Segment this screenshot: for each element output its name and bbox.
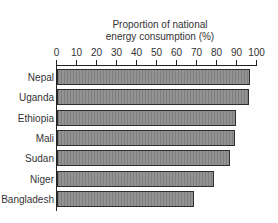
chart-title-line-2: energy consumption (%) bbox=[100, 31, 220, 43]
x-tick-label: 100 bbox=[248, 47, 265, 58]
x-tick bbox=[76, 60, 77, 66]
x-tick bbox=[236, 60, 237, 66]
x-tick-label: 40 bbox=[131, 47, 142, 58]
x-tick-label: 70 bbox=[191, 47, 202, 58]
x-tick-label: 0 bbox=[54, 47, 60, 58]
x-tick-label: 30 bbox=[111, 47, 122, 58]
category-label: Niger bbox=[30, 174, 54, 186]
bar-niger bbox=[57, 171, 214, 187]
category-label: Mali bbox=[36, 133, 54, 145]
chart-title-line-1: Proportion of national bbox=[100, 19, 220, 31]
bar-sudan bbox=[57, 150, 230, 166]
chart-title: Proportion of national energy consumptio… bbox=[100, 19, 220, 43]
x-tick-label: 60 bbox=[171, 47, 182, 58]
x-tick-label: 10 bbox=[71, 47, 82, 58]
category-label: Uganda bbox=[19, 92, 54, 104]
x-tick-label: 90 bbox=[231, 47, 242, 58]
x-tick bbox=[156, 60, 157, 66]
x-tick bbox=[136, 60, 137, 66]
x-tick bbox=[116, 60, 117, 66]
x-tick-label: 50 bbox=[151, 47, 162, 58]
bar-nepal bbox=[57, 69, 250, 85]
category-label: Ethiopia bbox=[18, 113, 54, 125]
category-label: Nepal bbox=[28, 72, 54, 84]
bar-uganda bbox=[57, 89, 249, 105]
x-tick bbox=[216, 60, 217, 66]
x-tick bbox=[256, 60, 257, 66]
x-tick bbox=[196, 60, 197, 66]
x-tick-label: 80 bbox=[211, 47, 222, 58]
x-tick bbox=[176, 60, 177, 66]
x-tick-label: 20 bbox=[91, 47, 102, 58]
x-tick bbox=[96, 60, 97, 66]
category-label: Bangladesh bbox=[1, 194, 54, 206]
bar-mali bbox=[57, 130, 235, 146]
bar-bangladesh bbox=[57, 191, 194, 207]
category-label: Sudan bbox=[25, 153, 54, 165]
bar-ethiopia bbox=[57, 110, 236, 126]
